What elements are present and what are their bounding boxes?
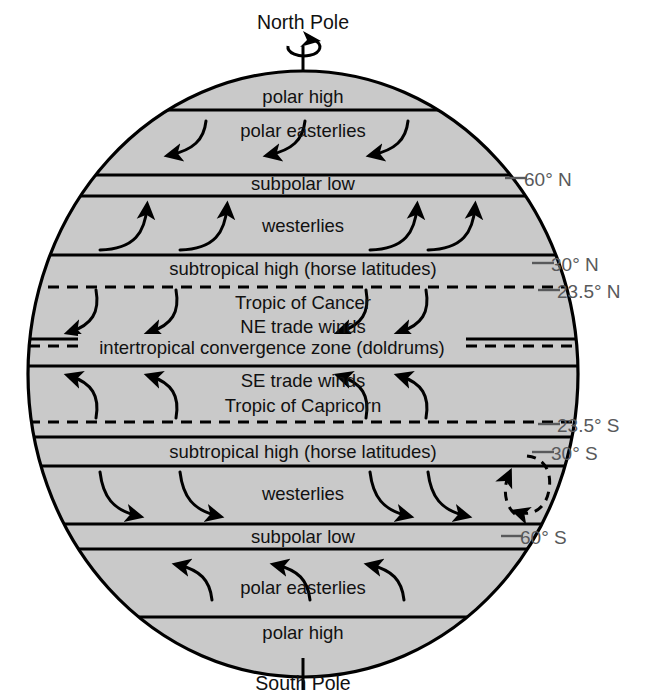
band-label-westerlies-n: westerlies xyxy=(261,215,344,236)
global-circulation-diagram: North Pole xyxy=(0,0,668,694)
band-label-westerlies-s: westerlies xyxy=(261,483,344,504)
band-label-tropic-of-capricorn: Tropic of Capricorn xyxy=(225,395,382,416)
lat-60s-label: 60° S xyxy=(520,527,567,548)
band-label-subpolar-low-s: subpolar low xyxy=(251,526,356,547)
band-label-itcz: intertropical convergence zone (doldrums… xyxy=(99,337,445,358)
lat-30n-label: 30° N xyxy=(551,254,599,275)
band-label-se-trade-winds: SE trade winds xyxy=(241,370,365,391)
lat-235s-label: 23.5° S xyxy=(557,415,620,436)
band-label-ne-trade-winds: NE trade winds xyxy=(240,316,365,337)
south-pole-label: South Pole xyxy=(255,672,350,694)
band-label-subtropical-high-n: subtropical high (horse latitudes) xyxy=(169,258,436,279)
band-label-tropic-of-cancer: Tropic of Cancer xyxy=(235,292,371,313)
band-label-polar-high-s: polar high xyxy=(262,622,343,643)
band-label-subpolar-low-n: subpolar low xyxy=(251,173,356,194)
band-label-polar-easterlies-n: polar easterlies xyxy=(240,120,365,141)
diagram-canvas: North Pole xyxy=(0,0,668,694)
band-label-subtropical-high-s: subtropical high (horse latitudes) xyxy=(169,441,436,462)
band-label-polar-easterlies-s: polar easterlies xyxy=(240,577,365,598)
lat-30s-label: 30° S xyxy=(551,443,598,464)
north-pole-label: North Pole xyxy=(257,11,349,33)
lat-235n-label: 23.5° N xyxy=(557,281,621,302)
band-label-polar-high-n: polar high xyxy=(262,86,343,107)
lat-60n-label: 60° N xyxy=(524,169,572,190)
